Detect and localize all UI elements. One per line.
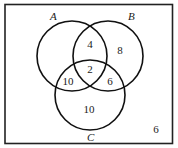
- region-a-c-only: 10: [63, 75, 75, 87]
- region-b-c-only: 6: [107, 75, 113, 87]
- set-c-label: C: [87, 131, 95, 143]
- venn-diagram: A B C 4 8 2 10 6 10 6: [0, 0, 178, 148]
- region-a-b-only: 4: [87, 38, 93, 50]
- region-outside: 6: [153, 123, 159, 135]
- region-a-b-c: 2: [87, 63, 93, 75]
- region-c-only: 10: [84, 103, 96, 115]
- set-b-label: B: [128, 10, 135, 22]
- region-b-only: 8: [117, 44, 123, 56]
- venn-svg: A B C 4 8 2 10 6 10 6: [0, 0, 178, 148]
- set-a-label: A: [49, 10, 57, 22]
